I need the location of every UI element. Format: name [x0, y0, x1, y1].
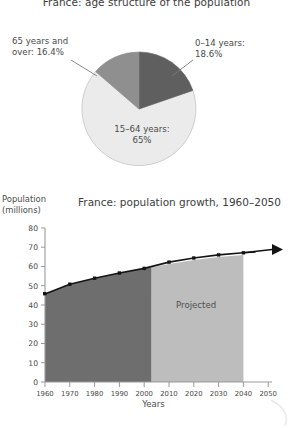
pie-label-older: 65 years and over: 16.4% — [12, 36, 68, 58]
x-axis-tick-labels: 1960 1970 1980 1990 2000 2010 2020 2030 … — [36, 390, 277, 398]
data-point — [192, 256, 195, 259]
line-arrow-icon — [243, 244, 283, 255]
data-point — [43, 292, 46, 295]
pie-label-young-line2: 18.6% — [195, 49, 245, 60]
y-axis-ticks — [41, 228, 45, 382]
page-curl-mark — [269, 400, 291, 426]
data-point — [143, 267, 146, 270]
y-tick-60: 60 — [28, 262, 38, 271]
y-tick-30: 30 — [28, 320, 38, 329]
x-tick-2030: 2030 — [210, 390, 228, 398]
figure-page: France: age structure of the population … — [0, 0, 293, 428]
area-actual — [45, 267, 152, 382]
x-axis-ticks — [45, 382, 268, 387]
y-axis-tick-labels: 80 70 60 50 40 30 20 10 0 — [28, 224, 38, 387]
y-tick-40: 40 — [28, 301, 38, 310]
pie-figure: France: age structure of the population … — [0, 0, 293, 186]
x-tick-2050: 2050 — [259, 390, 277, 398]
x-axis-caption: Years — [36, 399, 271, 409]
pie-label-young: 0–14 years: 18.6% — [195, 38, 245, 60]
pie-chart-graphic — [0, 0, 293, 186]
x-tick-2000: 2000 — [135, 390, 153, 398]
projected-annotation: Projected — [176, 300, 216, 310]
y-tick-0: 0 — [33, 378, 38, 387]
pie-label-working-line1: 15–64 years: — [96, 124, 188, 135]
pie-label-older-line2: over: 16.4% — [12, 47, 68, 58]
y-tick-50: 50 — [28, 282, 38, 291]
data-point — [118, 271, 121, 274]
y-tick-10: 10 — [28, 359, 38, 368]
y-tick-70: 70 — [28, 243, 38, 252]
x-tick-1970: 1970 — [61, 390, 79, 398]
leader-line-older — [71, 60, 97, 76]
x-tick-1960: 1960 — [36, 390, 54, 398]
data-point — [68, 283, 71, 286]
data-point — [167, 260, 170, 263]
pie-label-working-age: 15–64 years: 65% — [96, 124, 188, 146]
data-point — [242, 251, 245, 254]
x-tick-1990: 1990 — [111, 390, 129, 398]
pie-label-young-line1: 0–14 years: — [195, 38, 245, 49]
x-tick-2040: 2040 — [235, 390, 253, 398]
y-tick-80: 80 — [28, 224, 38, 233]
x-tick-2020: 2020 — [185, 390, 203, 398]
area-projected — [152, 255, 244, 382]
x-tick-1980: 1980 — [86, 390, 104, 398]
y-tick-20: 20 — [28, 339, 38, 348]
x-tick-2010: 2010 — [160, 390, 178, 398]
growth-figure: France: population growth, 1960–2050 Pop… — [0, 186, 293, 428]
data-point — [93, 277, 96, 280]
data-point — [217, 253, 220, 256]
growth-chart-graphic: 80 70 60 50 40 30 20 10 0 — [0, 186, 293, 428]
pie-label-older-line1: 65 years and — [12, 36, 68, 47]
pie-label-working-line2: 65% — [96, 135, 188, 146]
